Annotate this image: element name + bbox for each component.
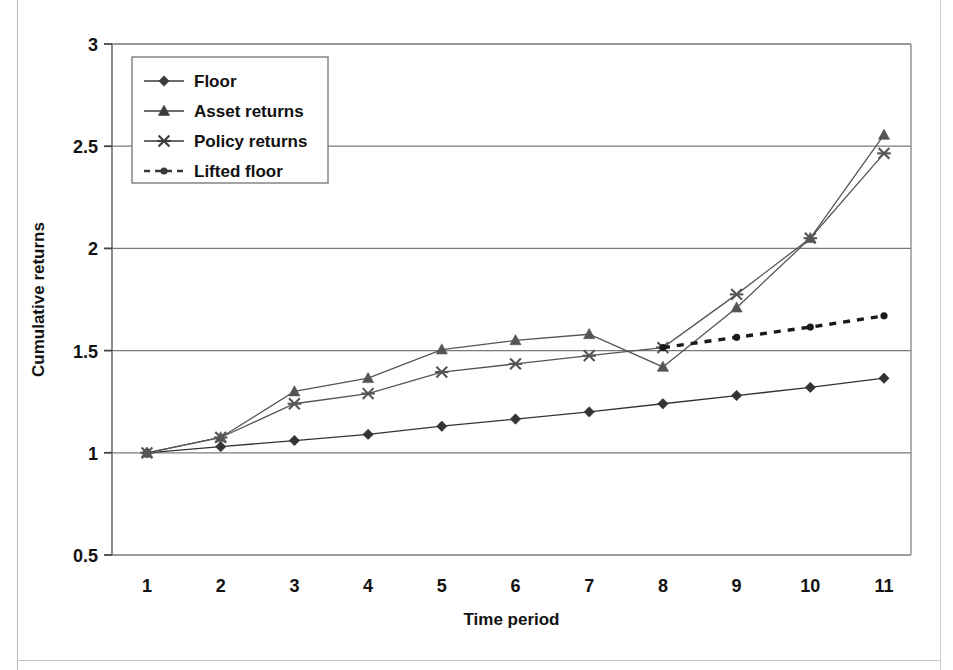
y-tick-label: 0.5: [73, 546, 98, 566]
series-line: [147, 153, 884, 452]
legend-label: Lifted floor: [194, 162, 283, 181]
x-tick-label: 3: [289, 576, 299, 596]
marker-diamond: [805, 382, 815, 392]
marker-diamond: [216, 441, 226, 451]
x-tick-label: 7: [584, 576, 594, 596]
marker-diamond: [731, 390, 741, 400]
x-axis-title: Time period: [463, 610, 559, 629]
marker-diamond: [658, 399, 668, 409]
series-policy-returns: [140, 148, 891, 458]
page-canvas: 32.521.510.5 1234567891011 FloorAsset re…: [0, 0, 953, 670]
marker-dot: [733, 334, 740, 341]
x-axis-tick-labels: 1234567891011: [142, 576, 894, 596]
chart-svg: 32.521.510.5 1234567891011 FloorAsset re…: [0, 0, 953, 670]
marker-dot: [659, 344, 666, 351]
marker-diamond: [437, 421, 447, 431]
marker-diamond: [584, 407, 594, 417]
chart-legend: FloorAsset returnsPolicy returnsLifted f…: [132, 57, 328, 183]
legend-label: Asset returns: [194, 102, 304, 121]
marker-triangle: [878, 129, 889, 139]
marker-diamond: [363, 429, 373, 439]
y-tick-label: 2: [88, 239, 98, 259]
marker-asterisk: [509, 358, 523, 369]
y-axis-tick-marks: [104, 44, 112, 555]
marker-asterisk: [877, 148, 891, 159]
y-tick-label: 2.5: [73, 137, 98, 157]
y-tick-label: 1.5: [73, 342, 98, 362]
x-tick-label: 11: [874, 576, 893, 596]
series-floor: [142, 373, 889, 458]
marker-asterisk: [361, 388, 375, 399]
marker-triangle: [363, 372, 374, 382]
marker-dot: [807, 323, 814, 330]
marker-asterisk: [730, 289, 744, 300]
x-tick-label: 6: [510, 576, 520, 596]
x-tick-label: 2: [216, 576, 226, 596]
line-chart-figure: 32.521.510.5 1234567891011 FloorAsset re…: [0, 0, 953, 670]
x-tick-label: 1: [142, 576, 152, 596]
x-tick-label: 10: [800, 576, 820, 596]
marker-diamond: [510, 414, 520, 424]
marker-triangle: [657, 361, 668, 371]
series-lifted-floor: [659, 312, 887, 351]
legend-label: Floor: [194, 72, 237, 91]
marker-asterisk: [288, 398, 302, 409]
y-axis-tick-labels: 32.521.510.5: [73, 35, 98, 566]
marker-triangle: [584, 328, 595, 338]
marker-dot: [160, 167, 167, 174]
x-tick-label: 4: [363, 576, 373, 596]
marker-diamond: [879, 373, 889, 383]
marker-asterisk: [435, 367, 449, 378]
marker-asterisk: [582, 350, 596, 361]
legend-label: Policy returns: [194, 132, 307, 151]
marker-dot: [880, 312, 887, 319]
y-tick-label: 1: [88, 444, 98, 464]
marker-diamond: [289, 435, 299, 445]
x-tick-label: 9: [732, 576, 742, 596]
x-tick-label: 5: [437, 576, 447, 596]
series-line: [663, 316, 884, 348]
y-tick-label: 3: [88, 35, 98, 55]
x-tick-label: 8: [658, 576, 668, 596]
y-axis-title: Cumulative returns: [29, 222, 48, 377]
